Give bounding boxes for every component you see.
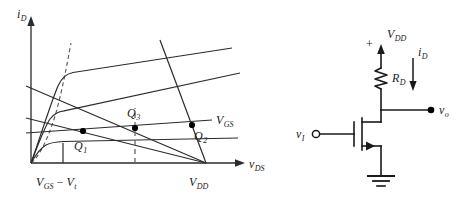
y-axis-arrowhead — [27, 16, 34, 26]
q3-label-sub: 3 — [135, 113, 140, 122]
q2-label-main: Q — [194, 129, 203, 143]
drain-resistor-label-sub: D — [399, 78, 406, 87]
y-axis-label: iD — [17, 7, 27, 23]
characteristic-curves-plot: iD vDS VGS−Vt VDD VGS Q1 Q3 Q2 — [0, 0, 270, 202]
x-axis-label: vDS — [249, 157, 265, 173]
supply-label-sub: DD — [394, 34, 407, 43]
output-label-sub: o — [445, 110, 449, 119]
drain-current-label-main: i — [418, 45, 421, 59]
drain-resistor-label: RD — [391, 71, 406, 87]
output-label: vo — [439, 103, 449, 119]
q1-label-main: Q — [74, 139, 83, 153]
drain-resistor-label-main: R — [391, 71, 400, 85]
curve-family-sub: GS — [224, 120, 234, 129]
y-axis-label-sub: D — [20, 14, 27, 23]
input-label-sub: I — [301, 134, 305, 143]
q1-point-dot — [80, 128, 86, 134]
tick-vgs-sub: GS — [44, 182, 54, 191]
tick-label-vdd: VDD — [189, 175, 209, 191]
drain-current-label-sub: D — [421, 52, 428, 61]
load-line-steepest — [160, 40, 206, 163]
load-lines — [26, 40, 212, 163]
load-line-shallow — [26, 120, 212, 133]
tick-label-vgs-minus-vt: VGS−Vt — [36, 175, 77, 191]
q3-label-main: Q — [127, 106, 136, 120]
circuit-wires — [320, 48, 431, 176]
input-label: vI — [296, 127, 305, 143]
tick-minus-sign: − — [57, 175, 64, 189]
ground-symbol — [368, 176, 394, 186]
supply-label: VDD — [387, 27, 407, 43]
source-arrowhead — [366, 142, 375, 151]
y-axis-label-main: i — [17, 7, 20, 21]
common-source-amplifier-circuit: VDD + iD RD vI vo — [270, 0, 466, 202]
q2-label-sub: 2 — [203, 136, 207, 145]
q3-point-dot — [132, 125, 138, 131]
supply-arrowhead — [377, 44, 385, 54]
q2-label: Q2 — [194, 129, 207, 145]
drain-current-label: iD — [418, 45, 428, 61]
figure-root: iD vDS VGS−Vt VDD VGS Q1 Q3 Q2 — [0, 0, 466, 202]
curve-family-label-vgs: VGS — [216, 113, 234, 129]
q3-label: Q3 — [127, 106, 140, 122]
x-axis-label-sub: DS — [254, 164, 265, 173]
tick-vdd-sub: DD — [196, 182, 209, 191]
q2-point-dot — [189, 122, 195, 128]
output-terminal[interactable] — [428, 107, 435, 114]
drain-resistor-symbol — [375, 68, 387, 89]
drain-current-arrow — [409, 58, 416, 91]
supply-plus-sign: + — [366, 37, 373, 51]
input-terminal[interactable] — [312, 130, 319, 137]
q1-label-sub: 1 — [83, 146, 87, 155]
tick-vt-sub: t — [74, 182, 77, 191]
x-axis-arrowhead — [235, 159, 245, 166]
